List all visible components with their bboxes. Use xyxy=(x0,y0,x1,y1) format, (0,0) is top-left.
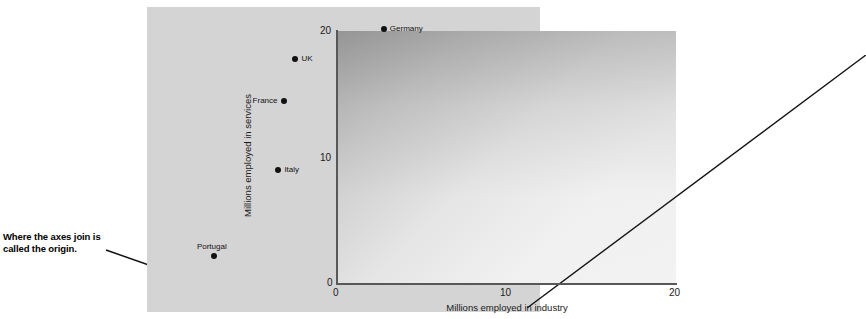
origin-annotation-line-2: called the origin. xyxy=(3,243,135,255)
x-tick-label-0: 0 xyxy=(333,287,339,298)
x-axis-title: Millions employed in industry xyxy=(337,302,677,313)
data-point-italy xyxy=(275,167,281,173)
plot-area xyxy=(337,31,676,284)
data-point-label-italy: Italy xyxy=(284,165,299,174)
x-tick-label-10: 10 xyxy=(500,287,511,298)
data-point-portugal xyxy=(211,253,217,259)
data-point-france xyxy=(281,98,287,104)
origin-annotation: Where the axes join is called the origin… xyxy=(3,231,135,255)
origin-annotation-line-1: Where the axes join is xyxy=(3,231,135,243)
data-point-label-uk: UK xyxy=(301,54,312,63)
y-tick-label-10: 10 xyxy=(320,152,331,163)
data-point-label-germany: Germany xyxy=(390,24,423,33)
x-tick-label-20: 20 xyxy=(669,287,680,298)
y-axis-title: Millions employed in services xyxy=(242,66,253,246)
y-tick-label-20: 20 xyxy=(320,25,331,36)
y-tick-label-0: 0 xyxy=(327,277,333,288)
x-axis-line xyxy=(336,283,677,285)
data-point-germany xyxy=(381,26,387,32)
y-axis-line xyxy=(336,30,338,285)
reference-line-45deg xyxy=(527,55,866,308)
data-point-label-portugal: Portugal xyxy=(197,242,227,251)
data-point-label-france: France xyxy=(253,96,278,105)
chart-frame: Millions employed in services 20 10 0 0 … xyxy=(147,7,540,312)
data-point-uk xyxy=(292,56,298,62)
